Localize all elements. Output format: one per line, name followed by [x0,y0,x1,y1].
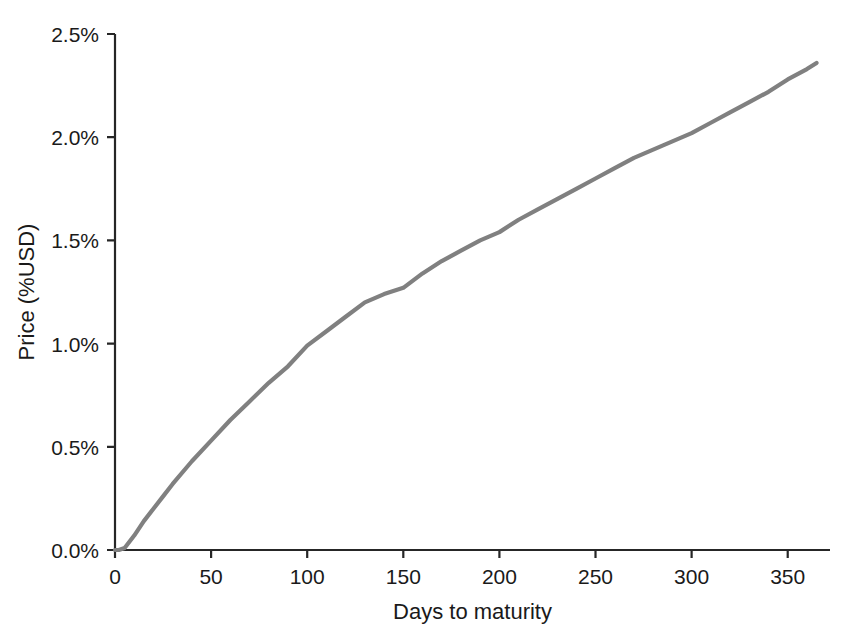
x-tick-label: 50 [199,566,222,587]
x-axis-title: Days to maturity [393,599,552,625]
y-tick-label: 1.0% [51,333,99,354]
x-tick-label: 100 [290,566,325,587]
y-tick-label: 1.5% [51,230,99,251]
axis-spines [115,34,830,550]
x-tick-label: 250 [578,566,613,587]
y-tick-label: 0.0% [51,540,99,561]
price-vs-maturity-chart: 0.0%0.5%1.0%1.5%2.0%2.5% 050100150200250… [0,0,854,632]
y-tick-label: 0.5% [51,436,99,457]
y-tick-label: 2.5% [51,24,99,45]
price-curve [115,63,817,550]
axes [107,34,830,558]
plot-area [0,0,854,632]
data-series [115,63,817,550]
x-tick-label: 350 [770,566,805,587]
tick-mark-path [107,34,788,558]
tick-marks [107,34,788,558]
y-tick-label: 2.0% [51,127,99,148]
x-tick-label: 300 [674,566,709,587]
x-tick-label: 200 [482,566,517,587]
x-tick-label: 150 [386,566,421,587]
x-tick-label: 0 [109,566,121,587]
y-axis-title: Price (%USD) [14,224,40,361]
